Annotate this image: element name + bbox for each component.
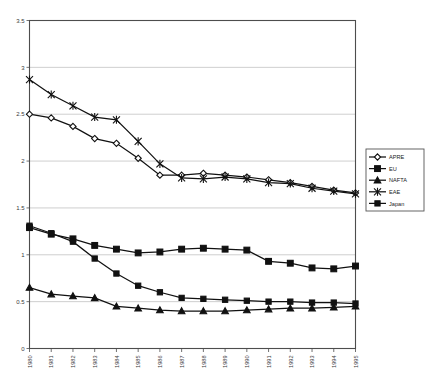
data-point xyxy=(266,299,271,304)
series-line xyxy=(30,80,356,194)
x-tick-label: 1987 xyxy=(179,356,185,368)
data-point xyxy=(353,263,359,269)
data-point xyxy=(92,256,97,261)
data-point xyxy=(266,258,272,264)
data-point xyxy=(309,300,314,305)
line-chart: 00.511.522.533.5198019811982198319841985… xyxy=(0,0,429,385)
data-point xyxy=(375,201,380,206)
data-point xyxy=(331,266,337,272)
data-point xyxy=(244,247,250,253)
data-point xyxy=(26,284,33,290)
plot-frame xyxy=(30,21,356,349)
x-tick-label: 1990 xyxy=(244,356,250,368)
data-point xyxy=(309,265,315,271)
x-tick-label: 1985 xyxy=(135,356,141,368)
legend-label: EU xyxy=(389,166,397,172)
x-tick-label: 1994 xyxy=(331,356,337,368)
data-point xyxy=(26,111,32,117)
data-point xyxy=(27,223,32,228)
y-tick-label: 3.5 xyxy=(16,18,25,24)
data-point xyxy=(156,160,163,168)
series-apre xyxy=(26,111,358,196)
y-tick-label: 0 xyxy=(21,346,25,352)
series-line xyxy=(30,226,356,304)
series-line xyxy=(30,114,356,193)
data-point xyxy=(353,301,358,306)
chart-root: 00.511.522.533.5198019811982198319841985… xyxy=(0,0,429,385)
data-point xyxy=(201,296,206,301)
data-point xyxy=(114,246,120,252)
data-point xyxy=(135,250,141,256)
x-tick-label: 1992 xyxy=(288,356,294,368)
data-point xyxy=(48,115,54,121)
data-point xyxy=(92,243,98,249)
data-point xyxy=(287,260,293,266)
chart-svg: 00.511.522.533.5198019811982198319841985… xyxy=(0,0,429,385)
legend-label: NAFTA xyxy=(389,177,407,183)
data-point xyxy=(136,283,141,288)
series-japan xyxy=(27,223,358,306)
x-tick-label: 1983 xyxy=(92,356,98,368)
y-tick-label: 2.5 xyxy=(16,111,25,117)
data-point xyxy=(288,299,293,304)
x-tick-label: 1984 xyxy=(114,356,120,368)
y-tick-label: 1.5 xyxy=(16,205,25,211)
x-tick-label: 1995 xyxy=(353,356,359,368)
series-group xyxy=(26,76,359,314)
legend-label: APRE xyxy=(389,154,405,160)
data-point xyxy=(157,290,162,295)
data-point xyxy=(244,298,249,303)
x-tick-label: 1991 xyxy=(266,356,272,368)
series-eu xyxy=(27,225,359,272)
data-point xyxy=(114,271,119,276)
legend-label: Japan xyxy=(389,201,404,207)
chart-legend: APREEUNAFTAEAEJapan xyxy=(366,149,424,211)
series-line xyxy=(30,228,356,269)
x-tick-label: 1993 xyxy=(309,356,315,368)
data-point xyxy=(179,295,184,300)
data-point xyxy=(375,166,381,172)
x-tick-label: 1982 xyxy=(70,356,76,368)
data-point xyxy=(331,300,336,305)
data-point xyxy=(48,91,55,99)
data-point xyxy=(222,246,228,252)
y-tick-label: 3 xyxy=(21,65,25,71)
data-point xyxy=(200,245,206,251)
series-nafta xyxy=(26,284,359,313)
y-axis: 00.511.522.533.5 xyxy=(16,18,29,352)
data-point xyxy=(179,246,185,252)
x-tick-label: 1980 xyxy=(27,356,33,368)
legend-label: EAE xyxy=(389,189,400,195)
x-axis: 1980198119821983198419851986198719881989… xyxy=(27,349,359,368)
y-tick-label: 1 xyxy=(21,252,25,258)
x-tick-label: 1986 xyxy=(157,356,163,368)
data-point xyxy=(70,123,76,129)
y-tick-label: 2 xyxy=(21,158,25,164)
data-point xyxy=(92,135,98,141)
series-line xyxy=(30,288,356,311)
x-tick-label: 1988 xyxy=(201,356,207,368)
data-point xyxy=(70,239,75,244)
x-tick-label: 1981 xyxy=(48,356,54,368)
y-tick-label: 0.5 xyxy=(16,299,25,305)
data-point xyxy=(157,249,163,255)
x-tick-label: 1989 xyxy=(222,356,228,368)
data-point xyxy=(69,102,76,110)
series-eae xyxy=(26,76,359,198)
data-point xyxy=(26,76,33,84)
data-point xyxy=(135,137,142,145)
data-point xyxy=(223,297,228,302)
data-point xyxy=(49,231,54,236)
